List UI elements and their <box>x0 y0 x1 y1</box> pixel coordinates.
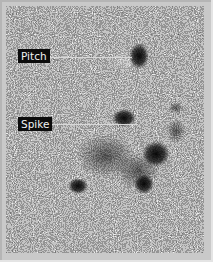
pitch-leader-line <box>48 57 132 58</box>
spike-label: Spike <box>18 117 52 131</box>
pitch-label: Pitch <box>18 49 50 63</box>
image-frame: Pitch Spike <box>0 0 213 262</box>
radar-image: Pitch Spike <box>6 6 204 253</box>
spike-leader-line <box>52 124 138 125</box>
noise-texture <box>6 6 204 253</box>
